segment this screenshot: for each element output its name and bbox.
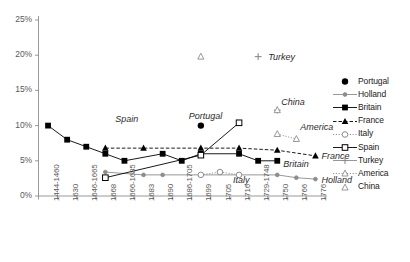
y-axis-tick-label: 5% xyxy=(2,155,32,165)
x-axis-tick-label: 1716 xyxy=(243,184,252,201)
x-axis-tick-label: 1750 xyxy=(281,184,290,201)
legend-label: China xyxy=(358,181,380,191)
series-turkey xyxy=(255,53,281,113)
annotation-china: China xyxy=(281,97,305,107)
x-axis-tick-label: 1666-1685 xyxy=(128,165,137,201)
legend-key-portugal-icon xyxy=(332,74,358,87)
chart-legend: PortugalHollandBritainFranceItalySpainTu… xyxy=(332,74,410,193)
legend-label: France xyxy=(358,115,384,125)
series-portugal xyxy=(198,122,204,128)
x-axis-tick-label: 1444-1460 xyxy=(52,165,61,201)
y-axis-tick-label: 10% xyxy=(2,120,32,130)
chart-container: 0%5%10%15%20%25% 1444-146016301646-16651… xyxy=(0,0,410,262)
x-axis-tick-label: 1766 xyxy=(300,184,309,201)
legend-label: America xyxy=(358,168,388,178)
series-china xyxy=(198,53,281,112)
legend-item-china[interactable]: China xyxy=(332,180,410,193)
annotation-britain: Britain xyxy=(283,159,309,169)
annotation-turkey: Turkey xyxy=(268,52,295,62)
y-axis-tick-label: 25% xyxy=(2,14,32,24)
legend-label: Holland xyxy=(358,89,386,99)
legend-key-italy-icon xyxy=(332,127,358,140)
legend-key-spain-icon xyxy=(332,140,358,153)
legend-label: Italy xyxy=(358,128,373,138)
legend-item-america[interactable]: America xyxy=(332,166,410,179)
x-axis-tick-label: 1646-1665 xyxy=(90,165,99,201)
x-axis-tick-label: 1699 xyxy=(204,184,213,201)
legend-label: Britain xyxy=(358,102,381,112)
legend-item-holland[interactable]: Holland xyxy=(332,87,410,100)
legend-item-turkey[interactable]: Turkey xyxy=(332,153,410,166)
y-axis-tick-label: 0% xyxy=(2,190,32,200)
legend-item-britain[interactable]: Britain xyxy=(332,100,410,113)
legend-key-america-icon xyxy=(332,166,358,179)
y-axis-tick-label: 20% xyxy=(2,49,32,59)
legend-item-france[interactable]: France xyxy=(332,114,410,127)
legend-label: Turkey xyxy=(358,155,383,165)
x-axis-tick-label: 1729-1748 xyxy=(262,165,271,201)
x-axis-tick-label: 1776 xyxy=(319,184,328,201)
legend-label: Portugal xyxy=(358,76,389,86)
x-axis-tick-label: 1668 xyxy=(109,184,118,201)
legend-key-britain-icon xyxy=(332,100,358,113)
annotation-italy: Italy xyxy=(233,175,250,185)
y-axis-tick-label: 15% xyxy=(2,84,32,94)
series-america xyxy=(274,131,299,142)
legend-key-turkey-icon xyxy=(332,153,358,166)
legend-label: Spain xyxy=(358,142,379,152)
annotation-portugal: Portugal xyxy=(189,111,223,121)
x-axis-tick-label: 1686-1705 xyxy=(185,165,194,201)
x-axis-tick-label: 1630 xyxy=(71,184,80,201)
legend-item-italy[interactable]: Italy xyxy=(332,127,410,140)
legend-key-holland-icon xyxy=(332,87,358,100)
x-axis-tick-label: 1705 xyxy=(224,184,233,201)
legend-item-portugal[interactable]: Portugal xyxy=(332,74,410,87)
series-britain xyxy=(45,123,280,164)
annotation-america: America xyxy=(300,122,333,132)
legend-item-spain[interactable]: Spain xyxy=(332,140,410,153)
x-axis-tick-label: 1683 xyxy=(147,184,156,201)
legend-key-france-icon xyxy=(332,114,358,127)
legend-key-china-icon xyxy=(332,180,358,193)
annotation-spain: Spain xyxy=(115,114,138,124)
x-axis-tick-label: 1690 xyxy=(166,184,175,201)
